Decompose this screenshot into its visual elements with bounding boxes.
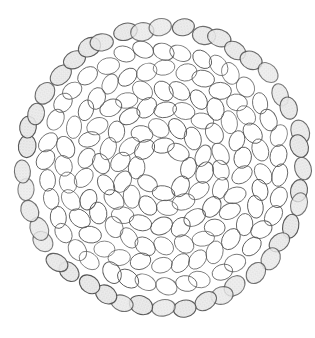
outline-oval [128,250,153,272]
shaded-oval [151,298,177,318]
outline-oval [51,220,75,246]
outline-oval [228,162,255,188]
outline-oval [77,187,100,213]
outline-oval [85,85,108,112]
outline-oval [202,120,227,147]
shaded-oval [172,298,198,319]
outline-oval [94,171,119,198]
outline-oval [32,146,58,173]
outline-oval [218,225,245,253]
outline-oval [131,233,159,259]
outline-oval [148,214,176,239]
outline-oval [110,168,136,196]
outline-oval [226,128,247,153]
inner-outline-ring [89,94,233,241]
outline-oval [153,274,180,298]
outline-oval [99,71,121,96]
outline-oval [64,236,90,264]
outline-oval [182,125,204,152]
outline-oval [246,194,265,219]
outline-oval [130,38,156,61]
inner-outline-ring [32,38,290,298]
outline-oval [192,142,215,169]
outline-oval [75,145,99,171]
inner-outline-ring [127,136,198,203]
inner-outline-ring [52,58,275,276]
inner-outline-ring [107,115,217,219]
outline-oval [209,175,231,201]
oval-rings [14,16,314,319]
outline-oval [150,77,177,104]
outline-oval [107,249,131,267]
shaded-oval [89,33,114,52]
outline-oval [152,58,176,77]
outline-oval [150,255,174,275]
outline-oval [53,133,78,161]
outline-oval [233,74,259,101]
outline-oval [168,250,194,276]
oval-mandala-svg [0,0,315,338]
outline-oval [187,269,212,290]
outline-oval [135,171,161,195]
mandala-drawing [0,0,315,338]
outline-oval [175,274,199,293]
outline-oval [94,241,115,257]
outline-oval [155,198,179,217]
shaded-oval [14,159,32,183]
outline-oval [190,68,216,89]
outline-oval [102,214,126,241]
shaded-oval [292,155,314,181]
outline-oval [191,230,216,248]
outline-oval [97,135,119,162]
outline-oval [112,43,137,64]
outer-shaded-ring [14,16,314,319]
outline-oval [133,94,161,122]
inner-outline-ring [70,77,255,259]
outline-oval [132,271,159,294]
outline-oval [39,169,55,191]
outline-oval [205,96,226,122]
outline-oval [117,224,142,251]
outline-oval [99,258,125,286]
outline-oval [204,239,226,266]
outline-oval [165,140,193,165]
outline-oval [249,137,272,164]
outline-oval [204,219,225,237]
outline-oval [57,170,79,195]
outline-oval [122,184,141,209]
outline-oval [84,114,111,137]
